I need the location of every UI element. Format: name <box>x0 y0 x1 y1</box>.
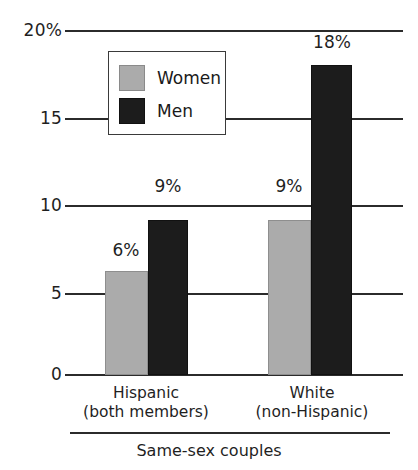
category-label-white-line2: (non-Hispanic) <box>232 403 392 422</box>
category-label-white: White (non-Hispanic) <box>232 384 392 422</box>
legend-label-men: Men <box>157 101 193 121</box>
y-tick-label-10: 10 <box>40 195 62 215</box>
y-tick-label-5: 5 <box>51 283 62 303</box>
group-axis-label: Same-sex couples <box>0 441 418 460</box>
bar-women-hispanic <box>105 271 148 375</box>
bar-chart: 20% 15 10 5 0 6% 9% 9% 18% Women Men His… <box>0 0 418 470</box>
value-label-men-white: 18% <box>302 32 362 52</box>
bar-women-white <box>268 220 311 375</box>
category-label-white-line1: White <box>289 384 334 402</box>
gridline-10 <box>65 205 403 207</box>
women-swatch-icon <box>119 65 145 91</box>
group-bracket-rule <box>70 432 390 434</box>
legend-item-women: Women <box>119 61 225 94</box>
category-label-hispanic: Hispanic (both members) <box>66 384 226 422</box>
category-label-hispanic-line1: Hispanic <box>113 384 179 402</box>
bar-men-white <box>311 65 352 375</box>
y-tick-label-20: 20% <box>24 20 62 40</box>
legend: Women Men <box>108 51 226 135</box>
value-label-men-hispanic: 9% <box>138 176 198 196</box>
y-tick-label-0: 0 <box>51 364 62 384</box>
men-swatch-icon <box>119 98 145 124</box>
y-tick-label-15: 15 <box>40 108 62 128</box>
legend-label-women: Women <box>157 68 221 88</box>
legend-item-men: Men <box>119 94 225 127</box>
category-label-hispanic-line2: (both members) <box>66 403 226 422</box>
value-label-women-white: 9% <box>259 176 319 196</box>
value-label-women-hispanic: 6% <box>96 240 156 260</box>
